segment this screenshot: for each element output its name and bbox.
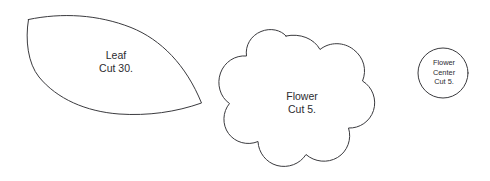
- flower-piece-label: Flower Cut 5.: [262, 90, 342, 116]
- flower-center-label-name-line1: Flower: [420, 58, 468, 68]
- flower-label-cut: Cut 5.: [262, 103, 342, 116]
- flower-center-label-name-line2: Center: [420, 68, 468, 78]
- pattern-shapes-canvas: [0, 0, 490, 181]
- leaf-label-name: Leaf: [78, 49, 154, 62]
- leaf-piece-label: Leaf Cut 30.: [78, 49, 154, 75]
- flower-label-name: Flower: [262, 90, 342, 103]
- pattern-template-sheet: Leaf Cut 30. Flower Cut 5. Flower Center…: [0, 0, 490, 181]
- flower-center-label-cut: Cut 5.: [420, 77, 468, 87]
- flower-center-piece-label: Flower Center Cut 5.: [420, 58, 468, 87]
- leaf-label-cut: Cut 30.: [78, 62, 154, 75]
